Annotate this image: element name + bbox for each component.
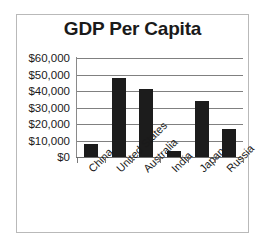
gridline xyxy=(77,75,243,76)
gridline xyxy=(77,58,243,59)
x-axis-tick xyxy=(77,158,78,163)
x-axis-tick xyxy=(215,158,216,163)
chart-title: GDP Per Capita xyxy=(16,18,249,40)
gridline xyxy=(77,141,243,142)
y-axis-tick-label: $10,000 xyxy=(28,135,70,147)
y-axis-tick-label: $0 xyxy=(57,151,70,163)
x-axis-tick xyxy=(160,158,161,163)
y-axis-tick-label: $40,000 xyxy=(28,85,70,97)
y-axis-tick-label: $30,000 xyxy=(28,102,70,114)
x-axis-tick xyxy=(132,158,133,163)
x-axis-tick xyxy=(105,158,106,163)
gridline xyxy=(77,91,243,92)
bar[interactable] xyxy=(195,101,209,157)
y-axis-tick-label: $50,000 xyxy=(28,69,70,81)
gridline xyxy=(77,108,243,109)
y-axis-tick-labels: $0$10,000$20,000$30,000$40,000$50,000$60… xyxy=(14,58,74,157)
y-axis-tick-label: $60,000 xyxy=(28,52,70,64)
x-axis-tick xyxy=(188,158,189,163)
y-axis-tick-label: $20,000 xyxy=(28,118,70,130)
plot-area xyxy=(77,58,243,157)
bar[interactable] xyxy=(112,78,126,157)
x-axis-tick xyxy=(243,158,244,163)
